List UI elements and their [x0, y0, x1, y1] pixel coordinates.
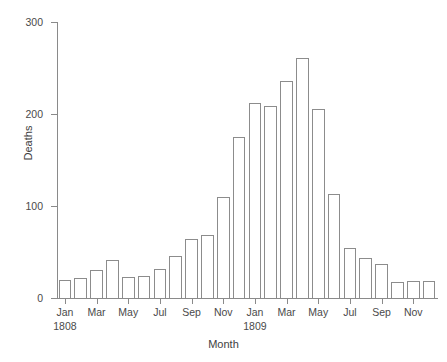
y-tick-label: 300: [9, 17, 43, 27]
bar: [138, 276, 151, 298]
x-tick-mark: [128, 299, 129, 304]
deaths-by-month-bar-chart: 0100200300 JanMarMayJulSepNovJanMarMayJu…: [0, 0, 447, 362]
x-tick-mark: [287, 299, 288, 304]
x-tick-mark: [192, 299, 193, 304]
y-tick-mark: [51, 298, 57, 299]
x-tick-mark: [413, 299, 414, 304]
x-tick-label: Nov: [393, 306, 433, 318]
bar: [407, 281, 420, 298]
bar: [391, 282, 404, 298]
x-tick-mark: [382, 299, 383, 304]
x-tick-mark: [223, 299, 224, 304]
y-axis-title: Deaths: [22, 103, 34, 183]
bar: [312, 109, 325, 298]
y-tick-label: 100: [9, 201, 43, 211]
x-tick-mark: [255, 299, 256, 304]
bar: [423, 281, 436, 298]
bar: [280, 81, 293, 298]
x-axis-title: Month: [0, 338, 447, 350]
bar: [154, 269, 167, 298]
x-tick-mark: [97, 299, 98, 304]
bar: [122, 277, 135, 298]
bar: [359, 258, 372, 298]
bar: [217, 197, 230, 298]
bar: [249, 103, 262, 298]
bar: [233, 137, 246, 298]
x-tick-mark: [160, 299, 161, 304]
bar: [296, 58, 309, 298]
x-tick-mark: [65, 299, 66, 304]
x-axis-year-label: 1809: [232, 320, 278, 332]
bar: [185, 239, 198, 298]
bar: [59, 280, 72, 298]
bar: [375, 264, 388, 298]
x-tick-mark: [350, 299, 351, 304]
plot-area: [57, 22, 437, 298]
bar: [169, 256, 182, 298]
bar: [106, 260, 119, 298]
x-axis-year-label: 1808: [42, 320, 88, 332]
bar: [90, 270, 103, 298]
bar: [344, 248, 357, 298]
bar: [74, 278, 87, 298]
y-tick-label: 0: [9, 293, 43, 303]
bar: [264, 106, 277, 298]
x-tick-mark: [318, 299, 319, 304]
bar: [328, 194, 341, 298]
bar: [201, 235, 214, 298]
